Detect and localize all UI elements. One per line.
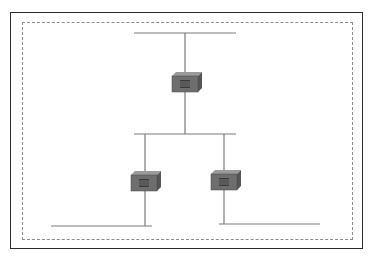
switch-icon-right[interactable] bbox=[211, 170, 241, 190]
switch-icon-top[interactable] bbox=[172, 72, 202, 92]
network-diagram bbox=[0, 0, 371, 257]
switch-icon-left[interactable] bbox=[131, 171, 161, 191]
